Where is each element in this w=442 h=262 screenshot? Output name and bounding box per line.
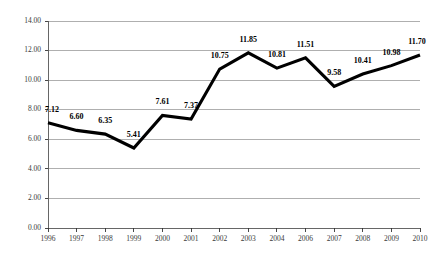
data-point-label-10.98: 10.98 <box>382 48 400 57</box>
data-point-label-6.35: 6.35 <box>98 116 112 125</box>
data-point-label-7.61: 7.61 <box>155 97 169 106</box>
x-tick-label-2010: 2010 <box>413 234 428 243</box>
data-point-label-7.12: 7.12 <box>45 105 59 114</box>
y-tick-label-12.00: 12.00 <box>24 45 41 54</box>
y-tick-label-8.00: 8.00 <box>28 104 41 113</box>
x-tick-label-1998: 1998 <box>98 234 113 243</box>
data-point-label-11.70: 11.70 <box>408 37 426 46</box>
y-tick-label-0.00: 0.00 <box>28 223 41 232</box>
y-tick-label-6.00: 6.00 <box>28 134 41 143</box>
data-point-label-10.81: 10.81 <box>268 50 286 59</box>
x-tick-label-1999: 1999 <box>126 234 141 243</box>
x-tick-label-2001: 2001 <box>184 234 199 243</box>
y-tick-label-4.00: 4.00 <box>28 164 41 173</box>
y-tick-label-14.00: 14.00 <box>24 16 41 25</box>
x-tick-label-1996: 1996 <box>41 234 56 243</box>
y-tick-label-10.00: 10.00 <box>24 75 41 84</box>
data-point-label-11.85: 11.85 <box>240 35 258 44</box>
data-point-label-7.37: 7.37 <box>184 101 198 110</box>
x-tick-label-2006: 2006 <box>298 234 313 243</box>
data-point-label-10.75: 10.75 <box>211 51 229 60</box>
data-point-label-10.41: 10.41 <box>354 56 372 65</box>
x-tick-label-1997: 1997 <box>69 234 84 243</box>
chart-canvas: 0.002.004.006.008.0010.0012.0014.00 1996… <box>0 0 442 262</box>
x-tick-label-2003: 2003 <box>241 234 256 243</box>
x-tick-label-2008: 2008 <box>355 234 370 243</box>
x-tick-label-2004: 2004 <box>269 234 284 243</box>
x-tick-label-2002: 2002 <box>212 234 227 243</box>
chart-background <box>0 0 442 262</box>
data-point-label-9.58: 9.58 <box>327 68 341 77</box>
x-tick-label-2007: 2007 <box>327 234 342 243</box>
data-point-label-11.51: 11.51 <box>297 40 315 49</box>
y-tick-label-2.00: 2.00 <box>28 193 41 202</box>
x-tick-label-2009: 2009 <box>384 234 399 243</box>
data-point-label-5.41: 5.41 <box>127 130 141 139</box>
x-tick-label-2000: 2000 <box>155 234 170 243</box>
line-chart: 0.002.004.006.008.0010.0012.0014.00 1996… <box>0 0 442 262</box>
data-point-label-6.60: 6.60 <box>70 112 84 121</box>
